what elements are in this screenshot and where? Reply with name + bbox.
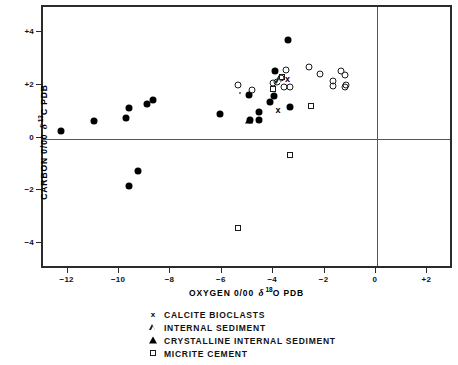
data-point-filled-circle — [91, 117, 98, 124]
legend-row: MICRITE CEMENT — [148, 347, 448, 360]
data-point-filled-circle — [272, 68, 279, 75]
x-axis-tick-label: −10 — [111, 275, 125, 284]
y-axis-tick-label: +2 — [24, 79, 34, 88]
x-axis-tick — [324, 268, 325, 273]
x-axis-tick-label: +2 — [422, 275, 432, 284]
zero-line-vertical — [377, 7, 379, 266]
data-point-open-square — [235, 225, 241, 231]
data-point-cross: x — [285, 75, 290, 82]
data-point-filled-circle — [286, 103, 293, 110]
legend-label: CALCITE BIOCLASTS — [164, 310, 265, 320]
data-point-open-circle — [317, 71, 324, 78]
legend-row: xCALCITE BIOCLASTS — [148, 308, 448, 321]
data-point-filled-circle — [255, 108, 262, 115]
y-axis-tick — [36, 31, 41, 32]
data-point-filled-circle — [267, 99, 274, 106]
data-point-cross: x — [276, 107, 281, 114]
legend-label: INTERNAL SEDIMENT — [164, 323, 266, 333]
open-square-icon — [150, 350, 156, 356]
data-point-filled-circle — [135, 167, 142, 174]
legend-label: MICRITE CEMENT — [164, 349, 248, 359]
zero-line-horizontal — [43, 139, 450, 141]
x-axis-tick-label: −4 — [267, 275, 277, 284]
x-axis-tick — [221, 268, 222, 273]
y-axis-tick-label: −2 — [24, 185, 34, 194]
data-point-filled-circle — [126, 183, 133, 190]
cross-icon: x — [151, 311, 155, 318]
data-point-open-triangle — [276, 77, 282, 83]
data-point-filled-circle — [255, 117, 262, 124]
y-axis-tick-label: 0 — [29, 132, 34, 141]
x-axis-tick — [169, 268, 170, 273]
y-axis-title: CARBON 0/00 δ13C PDB — [37, 37, 49, 247]
isotope-crossplot-figure: xx −12−10−8−6−4−20+2+4+20−2−4 OXYGEN 0/0… — [0, 0, 458, 365]
data-point-open-circle — [286, 84, 293, 91]
delta-glyph: δ — [38, 122, 49, 130]
data-point-filled-circle — [150, 97, 157, 104]
x-axis-title: OXYGEN 0/00 δ18O PDB — [41, 286, 452, 298]
data-point-open-square — [287, 152, 293, 158]
x-axis-tick — [375, 268, 376, 273]
plot-area: xx — [41, 5, 452, 268]
data-point-open-circle — [341, 71, 348, 78]
x-axis-tick — [67, 268, 68, 273]
legend-row: CRYSTALLINE INTERNAL SEDIMENT — [148, 334, 448, 347]
x-axis-tick — [272, 268, 273, 273]
open-triangle-icon — [150, 324, 156, 330]
x-axis-tick-label: −12 — [60, 275, 74, 284]
legend-symbol-cross: x — [148, 308, 164, 321]
data-point-filled-circle — [57, 127, 64, 134]
data-point-filled-circle — [271, 92, 278, 99]
data-point-open-circle — [343, 81, 350, 88]
data-point-filled-circle — [123, 114, 130, 121]
y-axis-tick-label: −4 — [24, 237, 34, 246]
y-axis-tick-label: +4 — [24, 27, 34, 36]
legend-row: INTERNAL SEDIMENT — [148, 321, 448, 334]
data-point-open-circle — [305, 64, 312, 71]
legend-symbol-open-square — [148, 347, 164, 360]
x-axis-tick-label: 0 — [373, 275, 378, 284]
data-point-filled-circle — [285, 36, 292, 43]
data-point-filled-circle — [126, 105, 133, 112]
data-point-open-circle — [235, 82, 242, 89]
x-axis-tick-label: −6 — [216, 275, 226, 284]
data-point-filled-triangle — [245, 116, 253, 123]
legend-label: CRYSTALLINE INTERNAL SEDIMENT — [164, 336, 336, 346]
x-axis-tick-label: −8 — [165, 275, 175, 284]
data-point-open-circle — [330, 78, 337, 85]
data-point-open-square — [308, 103, 314, 109]
data-point-filled-circle — [217, 111, 224, 118]
legend-symbol-open-triangle — [148, 321, 164, 334]
legend-symbol-filled-triangle — [148, 334, 164, 347]
data-point-open-square — [270, 86, 276, 92]
legend: xCALCITE BIOCLASTSINTERNAL SEDIMENTCRYST… — [148, 308, 448, 360]
data-point-open-circle — [249, 86, 256, 93]
filled-triangle-icon — [149, 337, 157, 344]
x-axis-tick — [426, 268, 427, 273]
x-axis-tick-label: −2 — [319, 275, 329, 284]
x-axis-tick — [118, 268, 119, 273]
data-point-dot — [239, 92, 241, 94]
